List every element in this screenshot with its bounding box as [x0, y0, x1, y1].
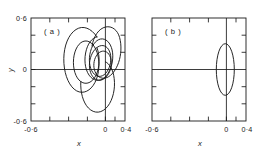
panel-a-y-axis-title: y: [6, 67, 15, 73]
panel-a-x-ticks: [50, 117, 115, 121]
panel-a-y-ticks: [31, 35, 35, 104]
panel-a: ( a ) 0·6 0 -0·6 -0·6 0 0·4 x y: [6, 14, 132, 148]
figure-container: ( a ) 0·6 0 -0·6 -0·6 0 0·4 x y: [0, 0, 263, 154]
panel-b: ( b ) -0·6 0 0·4 x: [145, 18, 252, 148]
panel-a-orbit-outer-lobe: [64, 27, 99, 92]
panel-a-tag: ( a ): [44, 27, 61, 36]
panel-a-ytick-label-zero: 0: [23, 65, 27, 74]
panel-a-xtick-label-right: 0·4: [121, 125, 132, 134]
panel-b-tag: ( b ): [165, 27, 182, 36]
figure-svg: ( a ) 0·6 0 -0·6 -0·6 0 0·4 x y: [0, 0, 263, 154]
panel-a-x-axis-title: x: [76, 139, 82, 148]
panel-b-xtick-label-zero: 0: [224, 125, 228, 134]
panel-a-orbit-curve: [85, 27, 121, 81]
panel-b-x-ticks: [171, 117, 236, 121]
panel-b-x-axis-title: x: [197, 139, 203, 148]
panel-a-xtick-label-left: -0·6: [24, 125, 38, 134]
panel-b-xtick-label-left: -0·6: [145, 125, 159, 134]
panel-b-xtick-label-right: 0·4: [242, 125, 253, 134]
panel-a-xtick-label-zero: 0: [103, 125, 107, 134]
panel-a-ytick-label-top: 0·6: [16, 14, 27, 23]
